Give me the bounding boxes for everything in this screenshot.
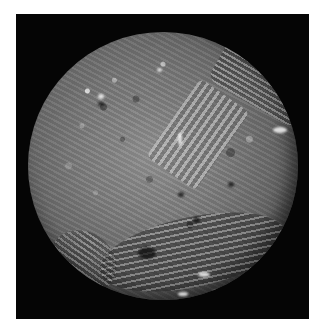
- bright-patch: [178, 132, 182, 146]
- dark-crater: [178, 192, 184, 197]
- dark-crater: [228, 182, 234, 187]
- space-background: [16, 14, 309, 319]
- dark-crater: [98, 102, 104, 106]
- bright-patch: [198, 272, 210, 277]
- bright-patch: [178, 292, 188, 296]
- bright-crater: [98, 94, 104, 99]
- dark-patch: [138, 247, 156, 259]
- moon-disk: [28, 32, 298, 300]
- dark-crater: [193, 217, 200, 223]
- bright-patch: [213, 290, 221, 294]
- bright-crater: [157, 68, 162, 72]
- bright-patch: [273, 127, 287, 133]
